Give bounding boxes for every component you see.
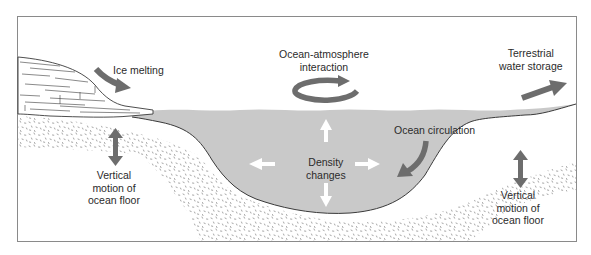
ocean-atmosphere-label: Ocean-atmosphere interaction [279, 48, 369, 73]
density-changes-label: Density changes [306, 156, 346, 181]
ocean-circulation-label: Ocean circulation [394, 124, 475, 137]
ice-melting-label: Ice melting [113, 64, 164, 77]
terrestrial-water-storage-label: Terrestrial water storage [499, 47, 563, 72]
vertical-motion-left-label: Vertical motion of ocean floor [88, 169, 140, 207]
vertical-motion-right-label: Vertical motion of ocean floor [492, 189, 544, 227]
